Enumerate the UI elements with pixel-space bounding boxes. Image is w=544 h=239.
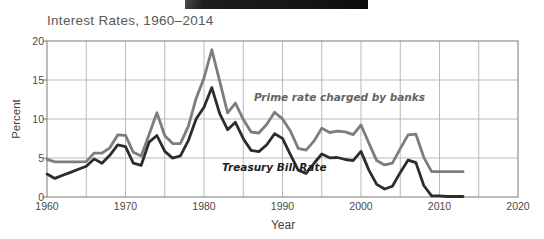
x-axis-title: Year	[253, 218, 313, 232]
y-axis-title: Percent	[10, 89, 24, 149]
x-tick-label: 1980	[184, 200, 224, 212]
x-tick-label: 1990	[263, 200, 303, 212]
prime-rate-series-label: Prime rate charged by banks	[254, 91, 425, 103]
y-tick-label: 15	[14, 74, 44, 87]
x-tick-label: 1970	[106, 200, 146, 212]
x-tick-label: 2020	[498, 200, 538, 212]
y-tick-label: 20	[14, 35, 44, 48]
chart-figure: Interest Rates, 1960–2014 05101520 19601…	[0, 0, 544, 239]
x-tick-label: 1960	[27, 200, 67, 212]
x-tick-label: 2010	[420, 200, 460, 212]
y-tick-label: 5	[14, 152, 44, 165]
x-tick-label: 2000	[341, 200, 381, 212]
treasury-bill-series-label: Treasury Bill Rate	[222, 161, 327, 173]
